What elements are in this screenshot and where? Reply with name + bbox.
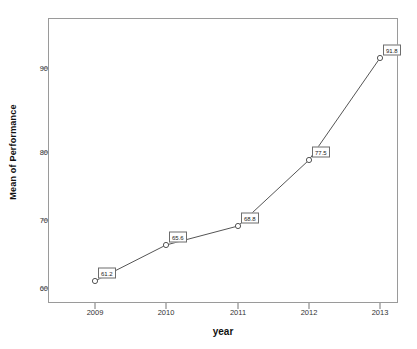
x-tick-label: 2012 [286, 308, 332, 317]
data-point-marker [377, 55, 382, 60]
data-point-marker [306, 157, 311, 162]
line-chart: Mean of Performance 90 80 70 60 [0, 0, 417, 349]
y-axis-ticks [42, 68, 48, 288]
data-point-label: 77.5 [312, 147, 330, 158]
x-tick-label: 2011 [215, 308, 261, 317]
x-axis-title: year [48, 326, 398, 337]
data-point-label: 91.8 [383, 45, 401, 56]
data-point-label: 61.2 [98, 268, 116, 279]
series-markers [92, 55, 382, 283]
data-point-marker [163, 242, 168, 247]
data-point-marker [92, 278, 97, 283]
data-point-marker [235, 223, 240, 228]
data-point-label: 65.6 [169, 232, 187, 243]
x-tick-label: 2010 [143, 308, 189, 317]
data-point-label: 68.8 [241, 213, 259, 224]
x-tick-label: 2013 [357, 308, 403, 317]
series-line [95, 58, 380, 281]
x-tick-label: 2009 [72, 308, 118, 317]
chart-canvas [0, 0, 417, 349]
